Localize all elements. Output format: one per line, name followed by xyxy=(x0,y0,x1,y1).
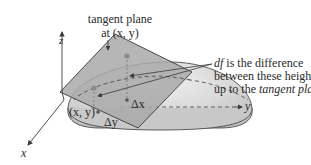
delta-y-label: Δy xyxy=(104,116,118,128)
axis-z-label: z xyxy=(59,34,63,46)
point-xy-label: (x, y) xyxy=(69,106,95,118)
tangent-plane-label-line1: tangent plane xyxy=(80,13,160,25)
df-annotation-line3-italic: tangent plane xyxy=(259,82,311,96)
df-annotation: df is the difference between these heigh… xyxy=(214,57,311,95)
tangent-plane-label-line2: at (x, y) xyxy=(80,27,160,39)
df-annotation-line3: up to the tangent plane xyxy=(214,83,311,95)
x-axis xyxy=(28,100,64,145)
point-delta-marker xyxy=(125,98,129,102)
df-symbol: df xyxy=(214,56,223,70)
point-marker-1 xyxy=(91,85,96,90)
delta-x-label: Δx xyxy=(131,98,145,110)
axis-x-label: x xyxy=(21,147,26,159)
axis-y-label: y xyxy=(245,100,250,112)
df-annotation-text: is the difference xyxy=(223,56,303,70)
df-annotation-line1: df is the difference xyxy=(214,57,311,69)
point-marker-2 xyxy=(124,53,129,58)
point-xy-marker xyxy=(96,110,100,114)
tangent-plane-label: tangent plane at (x, y) xyxy=(80,13,160,39)
df-annotation-line3-plain: up to the xyxy=(214,82,259,96)
df-annotation-line2: between these heights xyxy=(214,70,311,82)
